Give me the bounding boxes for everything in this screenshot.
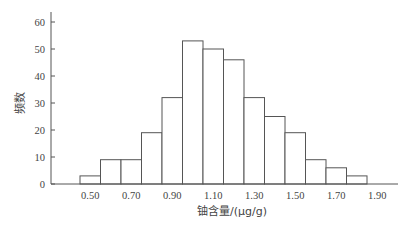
histogram-bar (121, 160, 142, 184)
y-axis-label: 频数 (13, 92, 27, 114)
x-axis: 0.500.700.901.101.301.501.701.90 (51, 184, 398, 201)
histogram-bar (244, 98, 265, 184)
histogram-bar (142, 133, 163, 184)
x-tick-label: 1.10 (204, 190, 222, 201)
y-tick-label: 40 (35, 71, 46, 82)
y-axis: 0102030405060 (35, 12, 56, 190)
x-axis-label: 铀含量/(μg/g) (197, 204, 267, 218)
histogram-bar (162, 98, 183, 184)
y-tick-label: 10 (35, 152, 46, 163)
x-tick-label: 1.50 (286, 190, 304, 201)
histogram-bar (80, 176, 101, 184)
histogram-bar (306, 160, 327, 184)
histogram-chart: 0102030405060 0.500.700.901.101.301.501.… (0, 0, 413, 229)
y-tick-label: 60 (35, 17, 46, 28)
histogram-bar (203, 49, 224, 184)
histogram-bar (285, 133, 306, 184)
y-tick-label: 30 (35, 98, 46, 109)
histogram-bar (326, 168, 347, 184)
histogram-bar (347, 176, 368, 184)
histogram-bar (224, 60, 245, 184)
histogram-bar (183, 41, 204, 184)
y-tick-label: 50 (35, 44, 46, 55)
y-tick-label: 20 (35, 125, 46, 136)
bars-group (80, 41, 367, 184)
histogram-bar (101, 160, 122, 184)
x-tick-label: 0.50 (81, 190, 99, 201)
x-tick-label: 0.70 (122, 190, 140, 201)
y-tick-label: 0 (40, 179, 45, 190)
x-tick-label: 1.90 (368, 190, 386, 201)
x-tick-label: 1.30 (245, 190, 263, 201)
histogram-bar (265, 117, 286, 185)
x-tick-label: 1.70 (327, 190, 345, 201)
x-tick-label: 0.90 (163, 190, 181, 201)
